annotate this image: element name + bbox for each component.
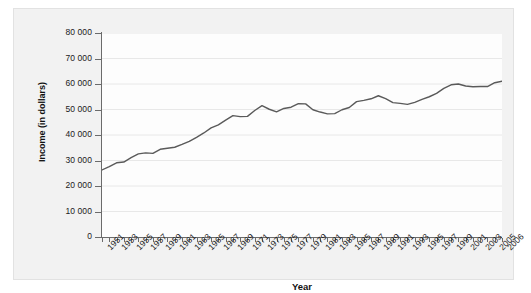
income-line-series bbox=[102, 81, 502, 170]
y-axis-tick-mark bbox=[95, 212, 101, 213]
y-axis-tick-mark bbox=[95, 135, 101, 136]
y-axis-tick-label: 40 000 bbox=[65, 129, 92, 139]
y-axis-tick-mark bbox=[95, 59, 101, 60]
y-axis-tick-label: 30 000 bbox=[65, 155, 92, 165]
y-axis-tick-mark bbox=[95, 186, 101, 187]
y-axis-tick-labels: 80 00070 00060 00050 00040 00030 00020 0… bbox=[36, 9, 92, 281]
y-axis-tick-mark bbox=[95, 33, 101, 34]
y-axis-tick-mark bbox=[95, 84, 101, 85]
chart-figure-panel: Income (in dollars) 80 00070 00060 00050… bbox=[13, 8, 514, 280]
y-axis-tick-mark bbox=[95, 161, 101, 162]
y-axis-tick-mark bbox=[95, 237, 101, 238]
y-axis-tick-label: 50 000 bbox=[65, 104, 92, 114]
chart-screenshot: Income (in dollars) 80 00070 00060 00050… bbox=[0, 0, 531, 293]
y-axis-tick-label: 0 bbox=[87, 231, 92, 241]
line-chart-svg bbox=[102, 33, 502, 237]
y-axis-tick-mark bbox=[95, 110, 101, 111]
y-axis-tick-label: 10 000 bbox=[65, 206, 92, 216]
x-axis-tick-mark bbox=[102, 238, 103, 242]
y-axis-tick-label: 20 000 bbox=[65, 180, 92, 190]
y-axis-tick-label: 60 000 bbox=[65, 78, 92, 88]
y-axis-tick-label: 80 000 bbox=[65, 27, 92, 37]
plot-area bbox=[102, 33, 502, 237]
gridlines bbox=[102, 33, 502, 212]
y-axis-tick-label: 70 000 bbox=[65, 53, 92, 63]
x-axis-title: Year bbox=[102, 281, 502, 292]
